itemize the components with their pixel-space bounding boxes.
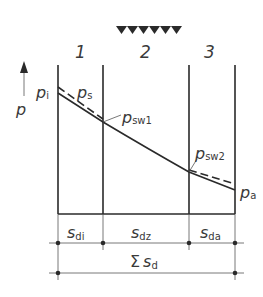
label-p-a: pa — [239, 183, 256, 202]
heating-triangle-icon — [149, 26, 160, 34]
dim-dot — [187, 241, 192, 246]
dim-dot — [233, 241, 238, 246]
heating-triangle-icon — [160, 26, 171, 34]
leader-psw1 — [103, 115, 121, 122]
dim-label-s-di: sdi — [67, 223, 84, 242]
heating-triangle-icon — [171, 26, 182, 34]
heating-triangle-icon — [116, 26, 127, 34]
heating-triangle-icon — [138, 26, 149, 34]
heating-triangle-icon — [127, 26, 138, 34]
zone-label-1: 1 — [75, 42, 86, 62]
label-p-s: ps — [76, 83, 92, 102]
dim-dot — [101, 241, 106, 246]
heating-marks — [116, 26, 182, 34]
dim-label-s-da: sda — [200, 223, 221, 242]
dim-label-s-dz: sdz — [131, 223, 151, 242]
pressure-drop-diagram: 1 2 3 p pi ps psw1 psw2 pa sdi sdz sda Σ… — [0, 0, 263, 297]
zone-label-3: 3 — [204, 42, 215, 62]
p-axis-arrow-icon — [20, 61, 28, 73]
dim-label-total: Σsd — [130, 252, 158, 271]
dim-dot — [233, 271, 238, 276]
zone-label-2: 2 — [140, 42, 151, 62]
label-p-i: pi — [35, 83, 49, 102]
pressure-curve-solid — [58, 93, 235, 190]
p-axis-label: p — [15, 100, 26, 119]
label-p-sw1: psw1 — [121, 108, 152, 127]
dim-dot — [56, 241, 61, 246]
label-p-sw2: psw2 — [194, 144, 225, 163]
dim-dot — [56, 271, 61, 276]
pressure-curve-dashed-outlet — [189, 170, 235, 184]
